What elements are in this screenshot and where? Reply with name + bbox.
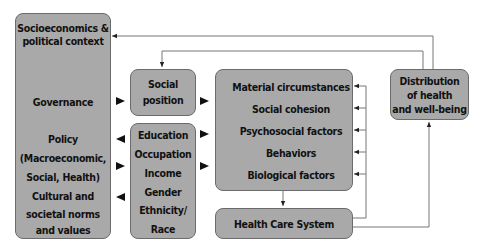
governance-label: Governance <box>16 96 110 108</box>
social-position-line2: position <box>131 94 195 106</box>
culture-label-3: and values <box>16 224 110 236</box>
stratifier-ethnicity: Ethnicity/ <box>131 204 195 216</box>
intermediary-box: Material circumstances Social cohesion P… <box>215 69 353 191</box>
outcome-line2: of health <box>391 89 468 101</box>
culture-label-1: Cultural and <box>16 190 110 202</box>
social-position-line1: Social <box>131 78 195 90</box>
outcome-box: Distribution of health and well-being <box>390 69 469 120</box>
stratifier-race: Race <box>131 223 195 235</box>
health-care-box: Health Care System <box>215 208 353 239</box>
outcome-line1: Distribution <box>391 75 468 87</box>
stratifier-education: Education <box>131 129 195 141</box>
policy-label-3: Social, Health) <box>16 171 110 183</box>
stratifier-gender: Gender <box>131 186 195 198</box>
factor-material: Material circumstances <box>230 81 352 93</box>
factor-psychosocial: Psychosocial factors <box>230 125 352 137</box>
feedback-line-to-context <box>112 36 433 69</box>
factor-behaviors: Behaviors <box>230 147 352 159</box>
stratifier-occupation: Occupation <box>131 148 195 160</box>
stratifiers-box: Education Occupation Income Gender Ethni… <box>130 123 196 239</box>
culture-label-2: societal norms <box>16 208 110 220</box>
health-care-label: Health Care System <box>216 218 352 230</box>
context-box: Socioeconomics & political context Gover… <box>15 13 111 239</box>
factor-social-cohesion: Social cohesion <box>230 103 352 115</box>
policy-label-2: (Macroeconomic, <box>16 152 110 164</box>
policy-label-1: Policy <box>16 133 110 145</box>
factor-biological: Biological factors <box>230 169 352 181</box>
context-title-2: political context <box>16 35 110 47</box>
context-title-1: Socioeconomics & <box>16 22 110 34</box>
feedback-line-to-social-position <box>162 51 423 69</box>
outcome-line3: and well-being <box>391 103 468 115</box>
social-position-box: Social position <box>130 69 196 116</box>
stratifier-income: Income <box>131 167 195 179</box>
